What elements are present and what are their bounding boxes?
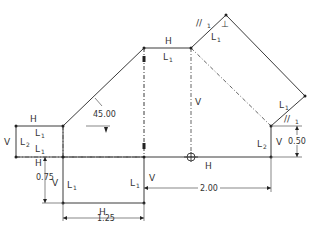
svg-text:L: L xyxy=(20,137,25,147)
svg-text:H: H xyxy=(205,161,212,171)
svg-text:1: 1 xyxy=(41,132,45,139)
svg-text:2: 2 xyxy=(263,143,267,150)
svg-text:2: 2 xyxy=(26,141,30,148)
origin-icon xyxy=(184,152,198,162)
vertical-dimension-right[interactable]: 0.50 xyxy=(288,137,306,146)
svg-text:1: 1 xyxy=(217,36,221,43)
svg-text:L: L xyxy=(67,180,72,190)
svg-text://: // xyxy=(196,18,203,28)
profile-lines xyxy=(16,15,305,203)
sketch-canvas: 45.00 0.75 1.25 2.00 0.50 H V L2 xyxy=(0,0,317,227)
svg-text:1: 1 xyxy=(169,56,173,63)
svg-text:L: L xyxy=(279,100,284,110)
svg-text:L: L xyxy=(163,52,168,62)
svg-text:L: L xyxy=(35,128,40,138)
svg-text:V: V xyxy=(195,97,202,107)
svg-text:H: H xyxy=(35,158,42,168)
svg-text:L: L xyxy=(130,178,135,188)
svg-text:V: V xyxy=(52,178,59,188)
constraint-vertical: V xyxy=(4,137,11,147)
svg-text:1: 1 xyxy=(73,184,77,191)
svg-text:L: L xyxy=(35,144,40,154)
svg-text:L: L xyxy=(211,32,216,42)
svg-text:1: 1 xyxy=(41,148,45,155)
constraint-horizontal: H xyxy=(30,114,37,124)
svg-text:V: V xyxy=(276,137,283,147)
perpendicular-icon: ⊥ xyxy=(221,19,229,29)
svg-text:1: 1 xyxy=(136,182,140,189)
svg-text:1: 1 xyxy=(295,118,299,125)
svg-text:V: V xyxy=(149,173,156,183)
svg-text:1: 1 xyxy=(285,104,289,111)
svg-text://: // xyxy=(284,114,291,124)
horizontal-dimension-long[interactable]: 2.00 xyxy=(200,184,218,193)
dimension-annotations: 45.00 0.75 1.25 2.00 0.50 xyxy=(36,98,310,223)
svg-text:1: 1 xyxy=(207,22,211,29)
svg-text:H: H xyxy=(99,207,106,217)
angle-dimension[interactable]: 45.00 xyxy=(93,110,116,119)
sketch-points xyxy=(15,14,307,205)
svg-text:H: H xyxy=(165,36,172,46)
svg-text:L: L xyxy=(257,139,262,149)
rect-edge-top-right xyxy=(226,15,305,96)
